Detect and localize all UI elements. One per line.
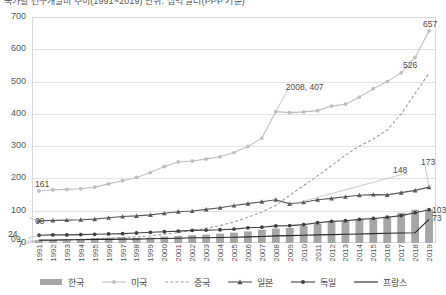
bar (369, 218, 377, 243)
legend-label: 독일 (320, 276, 336, 289)
data-point (176, 229, 180, 233)
bar (328, 222, 336, 243)
leader-line (28, 235, 39, 238)
data-point (232, 151, 236, 155)
data-point (371, 87, 375, 91)
bar (355, 219, 363, 243)
data-point (344, 102, 348, 106)
legend-swatch-bar-icon (38, 277, 64, 287)
line (39, 73, 429, 241)
data-point (65, 188, 69, 192)
legend-swatch-dashed-icon (164, 277, 190, 287)
data-point (427, 29, 431, 33)
data-label: 148 (393, 165, 407, 175)
legend-item[interactable]: 프랑스 (353, 276, 407, 289)
data-point (149, 171, 153, 175)
series-한국 (35, 210, 433, 243)
legend-item[interactable]: 일본 (227, 276, 273, 289)
data-point (162, 230, 166, 234)
data-point (135, 231, 139, 235)
leader-line (425, 165, 429, 187)
data-label: 69 (35, 216, 44, 226)
bar (174, 236, 182, 243)
data-point (316, 221, 320, 225)
data-point (232, 227, 236, 231)
chart-legend: 한국미국중국일본독일프랑스 (0, 274, 444, 290)
data-point (357, 95, 361, 99)
legend-label: 일본 (257, 276, 273, 289)
data-label: 526 (403, 60, 417, 70)
bar (202, 235, 210, 243)
data-point (357, 218, 361, 222)
data-point (316, 109, 320, 113)
bar (160, 237, 168, 243)
bar (383, 217, 391, 243)
data-point (79, 233, 83, 237)
data-point (204, 228, 208, 232)
data-point (51, 233, 55, 237)
data-point (274, 224, 278, 228)
data-point (330, 104, 334, 108)
data-point (302, 223, 306, 227)
bar (216, 234, 224, 243)
legend-label: 프랑스 (383, 276, 407, 289)
data-point (135, 176, 139, 180)
data-point (51, 188, 55, 192)
data-point (190, 229, 194, 233)
data-point (260, 225, 264, 229)
legend-item[interactable]: 중국 (164, 276, 210, 289)
legend-swatch-line-circle-icon (290, 277, 316, 287)
leader-line (276, 90, 288, 112)
data-point (218, 155, 222, 159)
series-미국 (37, 29, 431, 193)
data-label: 73 (432, 213, 441, 223)
data-label: 161 (35, 179, 49, 189)
legend-swatch-line-circle-light-icon (101, 277, 127, 287)
data-point (246, 226, 250, 230)
data-point (302, 110, 306, 114)
legend-item[interactable]: 독일 (290, 276, 336, 289)
bar (300, 226, 308, 243)
data-label: 0 (11, 234, 16, 244)
data-point (260, 136, 264, 140)
data-point (93, 185, 97, 189)
bar (314, 224, 322, 243)
bar (230, 233, 238, 243)
data-point (176, 160, 180, 164)
bar (411, 210, 419, 243)
data-point (413, 211, 417, 215)
data-point (344, 219, 348, 223)
data-point (371, 217, 375, 221)
data-point (204, 157, 208, 161)
data-point (330, 219, 334, 223)
data-point (149, 230, 153, 234)
bar (342, 220, 350, 243)
data-point (162, 165, 166, 169)
leader-line (290, 173, 407, 205)
bar (397, 213, 405, 243)
data-point (121, 232, 125, 236)
data-point (385, 80, 389, 84)
line (39, 31, 429, 191)
data-point (413, 55, 417, 59)
data-point (399, 71, 403, 75)
legend-item[interactable]: 미국 (101, 276, 147, 289)
data-point (65, 233, 69, 237)
legend-swatch-line-plain-icon (353, 277, 379, 287)
legend-label: 한국 (68, 276, 84, 289)
data-point (288, 224, 292, 228)
data-point (427, 208, 431, 212)
bar (119, 238, 127, 243)
data-point (107, 232, 111, 236)
data-point (93, 232, 97, 236)
legend-item[interactable]: 한국 (38, 276, 84, 289)
data-point (107, 182, 111, 186)
series-중국 (39, 73, 429, 241)
data-label: 2008, 407 (286, 82, 324, 92)
data-point (399, 214, 403, 218)
data-point (385, 215, 389, 219)
data-point (190, 159, 194, 163)
legend-swatch-line-triangle-icon (227, 277, 253, 287)
